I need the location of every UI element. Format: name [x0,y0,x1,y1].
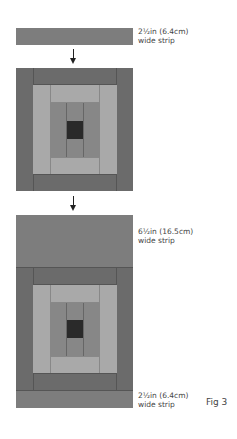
bottom-strip [16,390,133,408]
arrow-down-icon [73,196,74,206]
arrow-down-icon [73,49,74,59]
bottom-strip-label: 2½in (6.4cm) wide strip [138,392,188,409]
center-square [67,121,83,139]
center-square [67,320,83,338]
middle-strip-label: 6½in (16.5cm) wide strip [138,228,193,245]
top-strip [16,28,133,45]
top-strip-label: 2½in (6.4cm) wide strip [138,28,188,45]
figure-label: Fig 3 [206,397,227,407]
wide-strip [16,215,133,268]
